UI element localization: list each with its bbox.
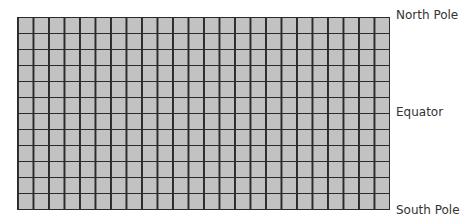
south-pole-label: South Pole [396, 203, 460, 217]
lat-long-grid [17, 17, 390, 210]
north-pole-label: North Pole [396, 8, 458, 22]
equator-label: Equator [396, 105, 443, 119]
